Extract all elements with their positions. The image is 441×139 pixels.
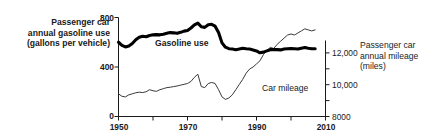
right-axis-title-line-3: (miles) bbox=[360, 61, 440, 72]
x-tick-label-2010: 2010 bbox=[312, 122, 340, 132]
series-label-car-mileage: Car mileage bbox=[262, 83, 308, 93]
left-tick-label-800: 800 bbox=[92, 13, 114, 23]
left-tick-label-400: 400 bbox=[92, 62, 114, 72]
right-axis-title-line-1: Passenger car bbox=[360, 40, 440, 51]
left-axis-ticks bbox=[115, 18, 119, 117]
x-tick-label-1990: 1990 bbox=[243, 122, 271, 132]
right-axis-title-line-2: annual mileage bbox=[360, 51, 440, 62]
x-axis-ticks bbox=[119, 117, 326, 121]
right-axis-title: Passenger car annual mileage (miles) bbox=[360, 40, 440, 72]
left-axis-title-line-3: (gallons per vehicle) bbox=[6, 38, 110, 49]
right-tick-label-12000: 12,000 bbox=[332, 48, 358, 58]
series-line-gasoline-use bbox=[119, 23, 316, 53]
x-tick-label-1970: 1970 bbox=[174, 122, 202, 132]
right-axis-ticks bbox=[326, 53, 330, 117]
left-tick-label-0: 0 bbox=[92, 111, 114, 121]
right-tick-label-8000: 8000 bbox=[332, 112, 351, 122]
left-axis-title-line-2: annual gasoline use bbox=[6, 28, 110, 39]
chart-figure: Passenger car annual gasoline use (gallo… bbox=[0, 0, 441, 139]
x-tick-label-1950: 1950 bbox=[105, 122, 133, 132]
right-tick-label-10000: 10,000 bbox=[332, 80, 358, 90]
series-label-gasoline-use: Gasoline use bbox=[155, 38, 209, 48]
